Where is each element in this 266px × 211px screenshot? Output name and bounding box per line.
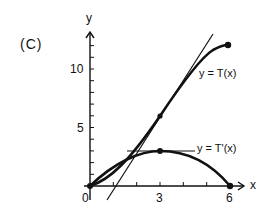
y-axis-label: y [86,11,92,25]
x-tick-6: 6 [226,191,233,205]
curve-Tprime [90,151,230,186]
calculus-figure [0,0,266,211]
curve-Tprime-label: y = T'(x) [197,142,236,154]
y-tick-10: 10 [70,62,83,76]
curve-T-label: y = T(x) [199,67,236,79]
panel-label: (C) [20,36,42,52]
x-tick-0: 0 [82,191,89,205]
x-tick-3: 3 [156,191,163,205]
y-tick-5: 5 [77,121,84,135]
x-axis-label: x [250,178,256,192]
